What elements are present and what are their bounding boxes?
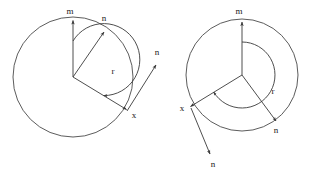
right-label-r: r <box>272 86 275 96</box>
left-label-x: x <box>132 110 137 120</box>
right-vector-x-radius <box>191 75 243 107</box>
vector-diagram-pair: m n n x r m n n x r <box>0 0 315 174</box>
right-label-n-outer: n <box>211 159 216 169</box>
left-label-n-outer: n <box>155 47 160 57</box>
right-angle-arc-r <box>214 42 275 108</box>
left-label-r: r <box>112 66 115 76</box>
left-vector-n-outer <box>127 65 156 111</box>
right-vector-n-inner <box>242 75 276 121</box>
right-diagram: m n n x r <box>180 6 298 169</box>
right-label-m: m <box>235 6 242 16</box>
left-vector-x-radius <box>73 77 127 110</box>
left-vector-n-inner <box>73 32 104 77</box>
left-angle-arc-r <box>73 24 140 96</box>
right-vector-n-outer <box>191 108 210 154</box>
right-label-n-inner: n <box>274 125 279 135</box>
right-label-x: x <box>180 103 185 113</box>
left-diagram: m n n x r <box>13 6 160 137</box>
left-label-n-inner: n <box>102 13 107 23</box>
left-label-m: m <box>66 6 73 16</box>
figure-canvas: m n n x r m n n x r <box>0 0 315 174</box>
